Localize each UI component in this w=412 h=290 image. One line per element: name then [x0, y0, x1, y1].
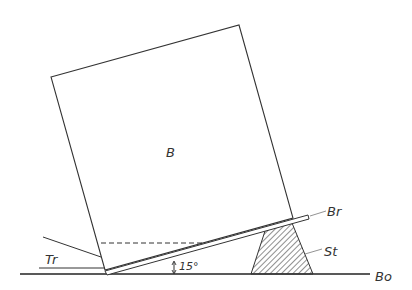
stand-label: St [324, 244, 338, 259]
angle-label: 15° [179, 260, 199, 273]
floor-label: Bo [375, 269, 392, 284]
board-leader-line [310, 211, 326, 216]
tr-label: Tr [45, 252, 59, 267]
tilted-box-diagram: B Br St Bo Tr 15° [0, 0, 412, 290]
stand-leader-line [305, 249, 322, 254]
board-label: Br [327, 204, 343, 219]
box-label: B [166, 145, 175, 160]
angle-arrow-icon [172, 261, 176, 274]
